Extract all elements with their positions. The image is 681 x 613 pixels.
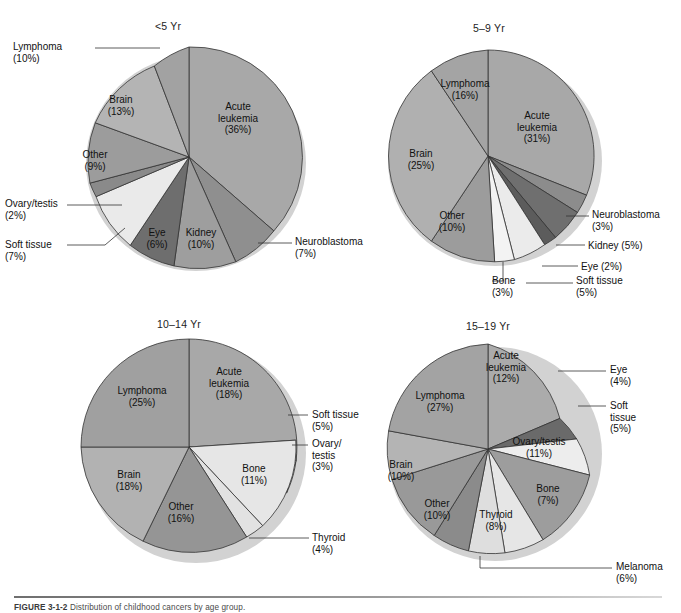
label-soft-tissue-name: Soft tissue xyxy=(576,275,623,286)
label-brain-name: Brain xyxy=(389,459,412,470)
label-ovary-testis-name: Ovary/testis xyxy=(5,198,58,209)
label-other: Other (16%) xyxy=(156,501,206,524)
label-ovary-testis-l2: testis xyxy=(312,450,335,461)
label-acute-leukemia-l1: Acute xyxy=(216,366,242,377)
label-ovary-testis-l1: Ovary/ xyxy=(312,438,341,449)
label-bone: Bone (3%) xyxy=(492,275,515,298)
label-kidney: Kidney (10%) xyxy=(178,227,224,250)
label-bone-name: Bone xyxy=(242,463,265,474)
label-soft-tissue: Soft tissue (5%) xyxy=(576,275,623,298)
label-acute-leukemia-pct: (18%) xyxy=(216,389,243,400)
label-soft-tissue-l1: Soft xyxy=(610,400,628,411)
figure-caption-body: Distribution of childhood cancers by age… xyxy=(70,603,245,612)
label-bone-name: Bone xyxy=(492,275,515,286)
label-other-pct: (10%) xyxy=(439,222,466,233)
label-ovary-testis-pct: (11%) xyxy=(526,448,552,459)
label-acute-leukemia-l2: leukemia xyxy=(209,378,249,389)
label-neuroblastoma-pct: (3%) xyxy=(592,221,613,232)
label-acute-leukemia-pct: (12%) xyxy=(493,373,520,384)
label-eye: Eye (2%) xyxy=(581,261,622,273)
label-thyroid: Thyroid (8%) xyxy=(470,509,522,532)
label-lymphoma-name: Lymphoma xyxy=(440,78,489,89)
label-lymphoma-pct: (25%) xyxy=(129,397,156,408)
label-ovary-testis-name: Ovary/testis xyxy=(513,436,566,447)
label-melanoma: Melanoma (6%) xyxy=(616,561,663,584)
label-acute-leukemia: Acute leukemia (36%) xyxy=(205,101,271,136)
label-bone-pct: (7%) xyxy=(537,495,558,506)
pie-panel-5-9: 5–9 Yr xyxy=(340,0,681,306)
label-acute-leukemia: Acute leukemia (12%) xyxy=(473,350,539,385)
label-lymphoma-pct: (16%) xyxy=(452,90,479,101)
pie-panel-15-19: 15–19 Yr xyxy=(340,306,681,596)
label-brain-pct: (25%) xyxy=(408,160,435,171)
label-thyroid-name: Thyroid xyxy=(479,509,512,520)
label-brain: Brain (18%) xyxy=(104,469,154,492)
label-other-pct: (9%) xyxy=(84,161,105,172)
label-soft-tissue-pct: (7%) xyxy=(5,251,26,262)
label-lymphoma: Lymphoma (25%) xyxy=(104,385,180,408)
label-neuroblastoma-pct: (7%) xyxy=(295,248,316,259)
label-soft-tissue-pct: (5%) xyxy=(610,423,631,434)
label-acute-leukemia-l1: Acute xyxy=(493,350,519,361)
label-brain: Brain (10%) xyxy=(376,459,426,482)
label-acute-leukemia-l2: leukemia xyxy=(517,122,557,133)
label-other-name: Other xyxy=(168,501,193,512)
label-soft-tissue-l2: tissue xyxy=(610,412,636,423)
label-kidney: Kidney (5%) xyxy=(588,240,642,252)
label-brain-pct: (18%) xyxy=(116,481,143,492)
label-bone-pct: (11%) xyxy=(241,475,267,486)
label-lymphoma-pct: (27%) xyxy=(427,402,454,413)
label-ovary-testis-pct: (3%) xyxy=(312,461,333,472)
label-melanoma-name: Melanoma xyxy=(616,561,663,572)
label-lymphoma-pct: (10%) xyxy=(13,53,40,64)
label-eye-pct: (4%) xyxy=(610,376,631,387)
label-soft-tissue: Soft tissue (5%) xyxy=(610,400,636,435)
label-ovary-testis: Ovary/ testis (3%) xyxy=(312,438,341,473)
label-bone: Bone (11%) xyxy=(230,463,278,486)
figure-caption: FIGURE 3-1-2 Distribution of childhood c… xyxy=(14,603,664,613)
label-brain: Brain (25%) xyxy=(396,148,446,171)
label-bone: Bone (7%) xyxy=(524,483,572,506)
label-lymphoma-name: Lymphoma xyxy=(117,385,166,396)
label-eye: Eye (4%) xyxy=(610,364,631,387)
label-bone-name: Bone xyxy=(536,483,559,494)
label-eye: Eye (6%) xyxy=(139,227,175,250)
label-brain-name: Brain xyxy=(117,469,140,480)
label-acute-leukemia-l1: Acute xyxy=(225,101,251,112)
label-other: Other (10%) xyxy=(412,498,462,521)
label-acute-leukemia-pct: (31%) xyxy=(524,133,551,144)
label-brain: Brain (13%) xyxy=(96,94,146,117)
label-soft-tissue-pct: (5%) xyxy=(576,287,597,298)
label-eye-name: Eye xyxy=(148,227,165,238)
label-acute-leukemia: Acute leukemia (18%) xyxy=(196,366,262,401)
label-other-name: Other xyxy=(82,149,107,160)
label-other-pct: (10%) xyxy=(424,510,451,521)
label-kidney-name: Kidney xyxy=(186,227,217,238)
label-kidney-text: Kidney (5%) xyxy=(588,240,642,251)
figure-caption-label: FIGURE 3-1-2 xyxy=(14,603,68,612)
label-melanoma-pct: (6%) xyxy=(616,573,637,584)
label-kidney-pct: (10%) xyxy=(188,239,215,250)
label-other: Other (9%) xyxy=(72,149,118,172)
label-acute-leukemia-l1: Acute xyxy=(524,110,550,121)
label-neuroblastoma: Neuroblastoma (3%) xyxy=(592,209,660,232)
label-thyroid-pct: (8%) xyxy=(485,521,506,532)
label-acute-leukemia-pct: (36%) xyxy=(225,124,252,135)
label-lymphoma: Lymphoma (27%) xyxy=(402,390,478,413)
pie-chart-5-9 xyxy=(340,0,681,306)
label-eye-text: Eye (2%) xyxy=(581,261,622,272)
label-soft-tissue-pct: (5%) xyxy=(312,421,333,432)
label-soft-tissue-name: Soft tissue xyxy=(5,239,52,250)
pie-panel-under-5: <5 Yr xyxy=(0,0,340,306)
label-neuroblastoma-name: Neuroblastoma xyxy=(592,209,660,220)
label-other-pct: (16%) xyxy=(168,513,195,524)
label-eye-pct: (6%) xyxy=(146,239,167,250)
label-ovary-testis-pct: (2%) xyxy=(5,210,26,221)
label-brain-pct: (13%) xyxy=(108,106,135,117)
label-acute-leukemia-l2: leukemia xyxy=(218,113,258,124)
label-eye-name: Eye xyxy=(610,364,627,375)
label-bone-pct: (3%) xyxy=(492,287,513,298)
label-brain-pct: (10%) xyxy=(388,471,415,482)
label-lymphoma-name: Lymphoma xyxy=(13,41,62,52)
label-brain-name: Brain xyxy=(409,148,432,159)
